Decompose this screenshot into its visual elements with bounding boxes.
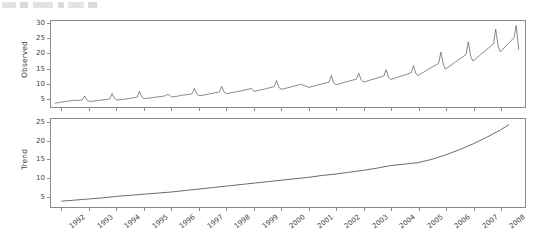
y-tick-label: 20	[23, 137, 45, 145]
seasonal-decomposition-figure: Observed 51015202530 Trend 510152025 199…	[0, 0, 542, 241]
x-tick-label: 2006	[453, 213, 472, 230]
x-tick-mark	[116, 108, 117, 111]
x-tick-mark	[226, 208, 227, 211]
x-tick-mark	[309, 208, 310, 211]
x-tick-label: 2003	[370, 213, 389, 230]
x-tick-mark	[116, 208, 117, 211]
y-tick-label: 25	[23, 34, 45, 42]
y-tick-label: 5	[23, 193, 45, 201]
y-tick-label: 10	[23, 174, 45, 182]
x-tick-mark	[364, 208, 365, 211]
y-tick-label: 15	[23, 155, 45, 163]
x-tick-label: 1998	[233, 213, 252, 230]
x-tick-mark	[391, 208, 392, 211]
y-tick-label: 5	[23, 95, 45, 103]
x-tick-mark	[364, 108, 365, 111]
x-tick-label: 1992	[68, 213, 87, 230]
x-tick-mark	[419, 208, 420, 211]
x-tick-label: 2004	[398, 213, 417, 230]
x-tick-mark	[391, 108, 392, 111]
x-tick-mark	[199, 208, 200, 211]
x-tick-label: 1993	[95, 213, 114, 230]
y-tick-label: 25	[23, 118, 45, 126]
x-tick-label: 1996	[178, 213, 197, 230]
x-tick-mark	[281, 108, 282, 111]
y-tick-label: 10	[23, 80, 45, 88]
x-tick-mark	[171, 208, 172, 211]
x-tick-mark	[446, 108, 447, 111]
trend-series-plot	[51, 119, 525, 207]
trend-plot-panel	[50, 118, 526, 208]
x-tick-mark	[144, 208, 145, 211]
observed-plot-panel	[50, 20, 526, 108]
x-tick-label: 2007	[480, 213, 499, 230]
x-tick-mark	[309, 108, 310, 111]
x-tick-label: 1995	[150, 213, 169, 230]
x-tick-mark	[474, 108, 475, 111]
x-tick-mark	[501, 108, 502, 111]
x-tick-mark	[61, 108, 62, 111]
x-tick-mark	[199, 108, 200, 111]
x-tick-mark	[89, 208, 90, 211]
x-tick-mark	[281, 208, 282, 211]
x-tick-mark	[446, 208, 447, 211]
y-tick-label: 20	[23, 49, 45, 57]
x-tick-label: 2000	[288, 213, 307, 230]
y-tick-label: 30	[23, 19, 45, 27]
x-tick-mark	[226, 108, 227, 111]
x-tick-mark	[89, 108, 90, 111]
observed-series-line	[55, 25, 519, 103]
x-tick-label: 1994	[123, 213, 142, 230]
x-tick-label: 2005	[425, 213, 444, 230]
x-tick-mark	[336, 208, 337, 211]
x-tick-mark	[501, 208, 502, 211]
trend-series-line	[62, 125, 509, 201]
x-tick-mark	[61, 208, 62, 211]
x-tick-label: 2002	[343, 213, 362, 230]
y-tick-label: 15	[23, 65, 45, 73]
observed-series-plot	[51, 21, 525, 107]
x-tick-label: 2001	[315, 213, 334, 230]
x-tick-mark	[336, 108, 337, 111]
x-tick-mark	[419, 108, 420, 111]
x-tick-mark	[254, 208, 255, 211]
x-tick-mark	[171, 108, 172, 111]
x-tick-mark	[254, 108, 255, 111]
x-tick-mark	[474, 208, 475, 211]
x-tick-mark	[144, 108, 145, 111]
x-tick-label: 2008	[508, 213, 527, 230]
x-tick-label: 1999	[260, 213, 279, 230]
x-tick-label: 1997	[205, 213, 224, 230]
